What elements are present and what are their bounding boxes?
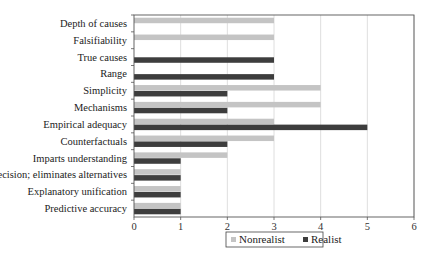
category-label: Empirical adequacy [43, 119, 127, 130]
legend-label-realist: Realist [311, 233, 342, 245]
bar-nonrealist [134, 169, 181, 175]
bar-realist [134, 158, 181, 164]
bar-realist [134, 91, 227, 97]
bar-nonrealist [134, 18, 274, 24]
x-tick-label: 6 [411, 221, 416, 232]
bar-realist [134, 108, 227, 114]
legend-swatch-realist [303, 237, 308, 242]
x-tick-label: 5 [365, 221, 370, 232]
category-labels: Depth of causesFalsifiabilityTrue causes… [0, 15, 134, 214]
category-label: Counterfactuals [61, 136, 127, 147]
gridlines [181, 15, 414, 217]
category-label: Simplicity [83, 85, 128, 96]
bar-realist [134, 175, 181, 181]
bar-realist [134, 209, 181, 215]
category-label: Falsifiability [73, 35, 127, 46]
bar-nonrealist [134, 186, 181, 192]
x-tick-label: 0 [131, 221, 136, 232]
bar-realist [134, 125, 367, 131]
bar-nonrealist [134, 119, 274, 125]
x-tick-label: 4 [318, 221, 324, 232]
x-tick-labels: 0123456 [131, 217, 416, 232]
category-label: Range [100, 68, 127, 79]
bar-realist [134, 74, 274, 80]
bar-nonrealist [134, 102, 321, 108]
legend-label-nonrealist: Nonrealist [239, 233, 285, 245]
legend: NonrealistRealist [226, 232, 342, 247]
bar-nonrealist [134, 136, 274, 142]
bar-nonrealist [134, 85, 321, 91]
bar-realist [134, 141, 227, 147]
x-tick-label: 2 [225, 221, 230, 232]
legend-swatch-nonrealist [231, 237, 236, 242]
x-tick-label: 3 [271, 221, 276, 232]
bar-nonrealist [134, 152, 227, 158]
category-label: True causes [78, 52, 127, 63]
bar-realist [134, 192, 181, 198]
bar-nonrealist [134, 35, 274, 41]
category-label: Imparts understanding [33, 153, 128, 164]
bar-nonrealist [134, 203, 181, 209]
category-label: Precision; eliminates alternatives [0, 169, 127, 180]
bar-realist [134, 57, 274, 63]
bar-chart: Depth of causesFalsifiabilityTrue causes… [0, 0, 428, 261]
category-label: Mechanisms [74, 102, 127, 113]
category-label: Predictive accuracy [45, 203, 128, 214]
bars [134, 18, 367, 215]
category-label: Depth of causes [60, 18, 127, 29]
x-tick-label: 1 [178, 221, 183, 232]
category-label: Explanatory unification [28, 186, 128, 197]
